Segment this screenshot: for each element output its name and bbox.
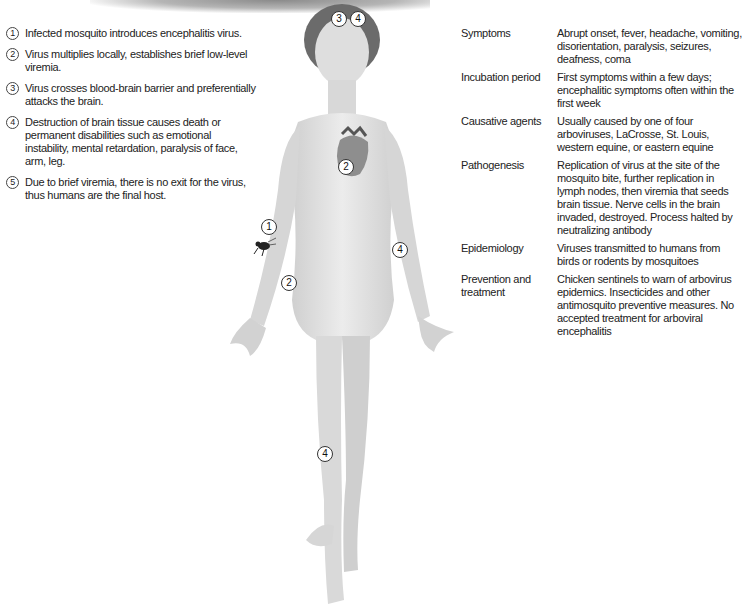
step-item: 4 Destruction of brain tissue causes dea… [6, 116, 256, 168]
fact-row-symptoms: Symptoms Abrupt onset, fever, headache, … [461, 27, 743, 66]
fact-row-prevention: Prevention and treatment Chicken sentine… [461, 273, 743, 338]
step-number-badge: 5 [6, 176, 19, 189]
fact-value: Chicken sentinels to warn of arbovirus e… [557, 273, 743, 338]
marker-left-forearm: 4 [392, 242, 408, 258]
marker-right-forearm: 2 [281, 275, 297, 291]
human-body-figure: 3 4 2 1 2 4 4 [220, 0, 470, 614]
fact-value: Abrupt onset, fever, headache, vomiting,… [557, 27, 743, 66]
marker-leg: 4 [317, 446, 333, 462]
step-number-badge: 3 [6, 82, 19, 95]
step-item: 5 Due to brief viremia, there is no exit… [6, 176, 256, 202]
marker-bite-site: 1 [261, 219, 277, 235]
fact-value: Replication of virus at the site of the … [557, 159, 743, 237]
fact-label: Causative agents [461, 115, 557, 154]
step-item: 3 Virus crosses blood-brain barrier and … [6, 82, 256, 108]
fact-label: Incubation period [461, 71, 557, 110]
step-number-badge: 1 [6, 27, 19, 40]
disease-facts-table: Symptoms Abrupt onset, fever, headache, … [461, 27, 743, 343]
infection-steps-list: 1 Infected mosquito introduces encephali… [6, 27, 256, 210]
step-number-badge: 4 [6, 116, 19, 129]
human-body-illustration [220, 0, 470, 614]
fact-value: First symptoms within a few days; enceph… [557, 71, 743, 110]
marker-heart: 2 [338, 159, 354, 175]
marker-head-right: 4 [350, 11, 366, 27]
step-number-badge: 2 [6, 48, 19, 61]
fact-label: Symptoms [461, 27, 557, 66]
step-item: 1 Infected mosquito introduces encephali… [6, 27, 256, 40]
fact-label: Prevention and treatment [461, 273, 557, 338]
fact-value: Viruses transmitted to humans from birds… [557, 242, 743, 268]
fact-row-incubation: Incubation period First symptoms within … [461, 71, 743, 110]
fact-row-causative-agents: Causative agents Usually caused by one o… [461, 115, 743, 154]
fact-label: Epidemiology [461, 242, 557, 268]
step-item: 2 Virus multiplies locally, establishes … [6, 48, 256, 74]
marker-head-left: 3 [331, 11, 347, 27]
fact-row-pathogenesis: Pathogenesis Replication of virus at the… [461, 159, 743, 237]
fact-label: Pathogenesis [461, 159, 557, 237]
fact-row-epidemiology: Epidemiology Viruses transmitted to huma… [461, 242, 743, 268]
fact-value: Usually caused by one of four arboviruse… [557, 115, 743, 154]
